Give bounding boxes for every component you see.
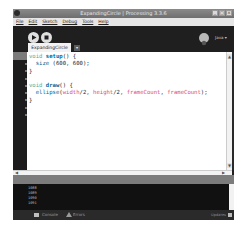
- code-line-7: }: [29, 97, 32, 103]
- code-text[interactable]: void setup() { size (600, 600); } void d…: [29, 53, 208, 104]
- menu-tools[interactable]: Tools: [82, 18, 93, 26]
- console-line: 1090: [28, 196, 37, 200]
- errors-tab[interactable]: Errors: [73, 212, 85, 218]
- console-line: 1091: [28, 201, 37, 205]
- menu-sketch[interactable]: Sketch: [42, 18, 57, 26]
- stop-button[interactable]: [41, 32, 52, 43]
- code-editor[interactable]: void setup() { size (600, 600); } void d…: [27, 52, 226, 170]
- menu-bar: File Edit Sketch Debug Tools Help: [13, 18, 234, 26]
- mode-selector[interactable]: Java ▾: [215, 35, 227, 40]
- code-line-3: }: [29, 68, 32, 74]
- menu-file[interactable]: File: [16, 18, 24, 26]
- close-button[interactable]: ×: [226, 10, 232, 16]
- updates-label[interactable]: Updates: [211, 212, 226, 218]
- code-line-5: void draw() {: [29, 82, 73, 88]
- console-line: 1088: [28, 186, 37, 190]
- code-line-2: size (600, 600);: [29, 60, 90, 66]
- tab-bar: ExpandingCircle ▾: [13, 43, 234, 52]
- console-line: 1089: [28, 191, 37, 195]
- tab-expandingcircle[interactable]: ExpandingCircle: [28, 43, 71, 52]
- debug-button[interactable]: [199, 33, 209, 43]
- tab-menu-button[interactable]: ▾: [74, 45, 80, 51]
- updates-icon[interactable]: [228, 213, 232, 217]
- console-panel[interactable]: 1088 1089 1090 1091: [13, 184, 234, 210]
- menu-help[interactable]: Help: [98, 18, 108, 26]
- window-title: ExpandingCircle | Processing 3.3.6: [13, 9, 234, 18]
- code-line-1: void setup() {: [29, 53, 76, 59]
- console-scrollbar[interactable]: [229, 184, 234, 210]
- minimize-button[interactable]: _: [212, 10, 218, 16]
- run-button[interactable]: [28, 32, 39, 43]
- status-bar: [13, 175, 234, 184]
- current-line-marker: [13, 52, 27, 60]
- line-gutter: [13, 52, 27, 170]
- footer-bar: Console Errors Updates: [13, 210, 234, 220]
- console-tab[interactable]: Console: [42, 212, 58, 218]
- play-icon: [28, 32, 39, 43]
- menu-debug[interactable]: Debug: [62, 18, 77, 26]
- stop-icon: [41, 32, 52, 43]
- editor-border: [232, 52, 234, 170]
- console-icon: [34, 213, 39, 217]
- warning-icon: [66, 212, 72, 217]
- title-bar: ExpandingCircle | Processing 3.3.6 _ □ ×: [13, 9, 234, 18]
- processing-window: ExpandingCircle | Processing 3.3.6 _ □ ×…: [13, 9, 234, 220]
- code-line-6: ellipse(width/2, height/2, frameCount, f…: [29, 89, 208, 95]
- maximize-button[interactable]: □: [219, 10, 225, 16]
- menu-edit[interactable]: Edit: [29, 18, 38, 26]
